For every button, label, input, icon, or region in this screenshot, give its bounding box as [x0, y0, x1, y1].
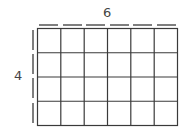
grid-lines: [38, 29, 178, 126]
grid-svg: [0, 0, 189, 138]
width-label: 6: [103, 6, 111, 19]
height-label: 4: [14, 69, 22, 82]
